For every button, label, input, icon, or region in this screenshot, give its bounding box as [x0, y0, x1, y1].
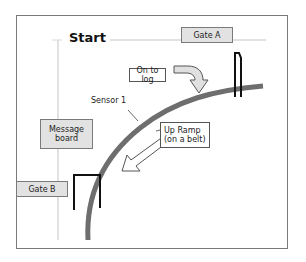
up-ramp-label: Up Ramp (on a belt) — [160, 122, 210, 148]
page-title: Start — [66, 30, 109, 45]
gate-b-label: Gate B — [16, 181, 68, 197]
sensor-pointer-line — [128, 110, 138, 121]
up-ramp-line2: (on a belt) — [164, 135, 206, 144]
up-ramp-line1: Up Ramp — [164, 126, 201, 135]
on-to-log-label: On to log — [129, 68, 166, 82]
curved-arrow-icon — [174, 66, 208, 93]
message-board-label: Message board — [40, 119, 93, 149]
gate-a-label: Gate A — [181, 27, 233, 43]
sensor-1-label: Sensor 1 — [91, 96, 126, 105]
track-curve — [88, 86, 263, 240]
